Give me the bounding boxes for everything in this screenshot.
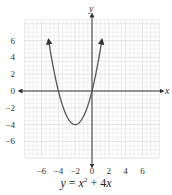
parabola-graph: 6420−2−4−6−6−4−20246 y x xyxy=(0,0,172,175)
x-tick-label: 0 xyxy=(90,166,95,175)
y-axis-label: y xyxy=(88,3,94,14)
x-tick-label: −4 xyxy=(54,166,64,175)
x-axis-label: x xyxy=(164,85,170,96)
equation-caption: y = x2 + 4x xyxy=(0,176,172,191)
caption-eq: = xyxy=(66,176,79,190)
y-tick-label: 6 xyxy=(11,36,16,46)
y-tick-label: 0 xyxy=(11,86,16,96)
x-tick-label: 4 xyxy=(123,166,128,175)
y-tick-label: 2 xyxy=(11,69,16,79)
y-tick-label: −4 xyxy=(5,120,15,130)
y-tick-label: −6 xyxy=(5,136,15,146)
x-tick-label: 6 xyxy=(140,166,145,175)
caption-rest: + 4 xyxy=(87,176,106,190)
y-tick-label: 4 xyxy=(11,52,16,62)
x-tick-label: 2 xyxy=(107,166,112,175)
x-tick-label: −6 xyxy=(37,166,47,175)
y-tick-label: −2 xyxy=(5,103,15,113)
caption-x2: x xyxy=(106,176,111,190)
x-tick-label: −2 xyxy=(70,166,80,175)
